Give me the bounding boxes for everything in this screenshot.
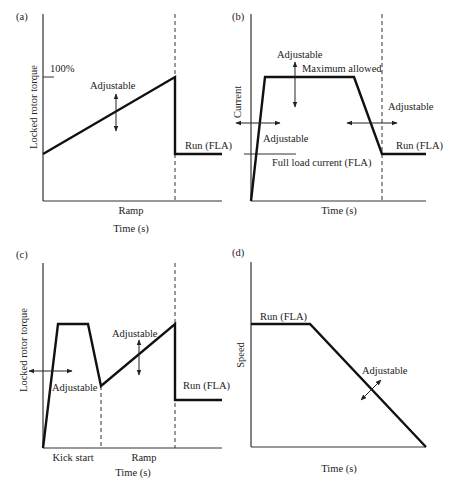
panel-c-y-label: Locked rotor torque [18, 308, 29, 392]
panel-c-adjustable-kick-label: Adjustable [52, 382, 98, 393]
panel-a-adjustable-label: Adjustable [90, 80, 136, 91]
panel-c-run-label: Run (FLA) [183, 380, 230, 392]
panel-b-x-label: Time (s) [321, 205, 357, 217]
panel-a-label: (a) [16, 11, 28, 23]
panel-c-label: (c) [16, 249, 28, 261]
panel-d-label: (d) [232, 247, 245, 259]
panel-a-100-label: 100% [50, 63, 75, 74]
panel-c: (c) Locked rotor torque Adjustable Adjus… [16, 249, 230, 479]
panel-b: (b) Current Adjustable Maximum allowed A… [232, 11, 443, 217]
panel-d-adjustable-label: Adjustable [362, 365, 408, 376]
panel-a-x-label: Time (s) [113, 223, 149, 235]
panel-b-fla-label: Full load current (FLA) [272, 157, 372, 169]
panel-c-kick-start-label: Kick start [52, 452, 93, 463]
panel-b-label: (b) [232, 11, 245, 23]
panel-a-y-label: Locked rotor torque [28, 65, 39, 149]
panel-b-run-label: Run (FLA) [396, 140, 443, 152]
panel-b-adjustable-fall-label: Adjustable [388, 101, 434, 112]
panel-b-adjustable-max-label: Adjustable [277, 49, 323, 60]
panel-d-run-label: Run (FLA) [260, 311, 307, 323]
panel-b-y-label: Current [232, 86, 243, 118]
panel-a-run-label: Run (FLA) [185, 140, 232, 152]
panel-d-y-label: Speed [235, 341, 246, 367]
panel-b-adjustable-rise-label: Adjustable [263, 133, 309, 144]
panel-d-speed-curve [251, 324, 426, 447]
panel-a: (a) 100% Locked rotor torque Adjustable … [16, 11, 232, 235]
panel-a-ramp-label: Ramp [118, 205, 143, 216]
motor-starter-figure: (a) 100% Locked rotor torque Adjustable … [0, 0, 452, 490]
panel-c-adjustable-ramp-label: Adjustable [112, 328, 158, 339]
panel-c-ramp-label: Ramp [131, 452, 156, 463]
panel-b-maximum-allowed-label: Maximum allowed [302, 63, 382, 74]
panel-c-x-label: Time (s) [115, 467, 151, 479]
panel-d-x-label: Time (s) [321, 463, 357, 475]
panel-d: (d) Speed Adjustable Run (FLA) Time (s) [232, 247, 426, 475]
